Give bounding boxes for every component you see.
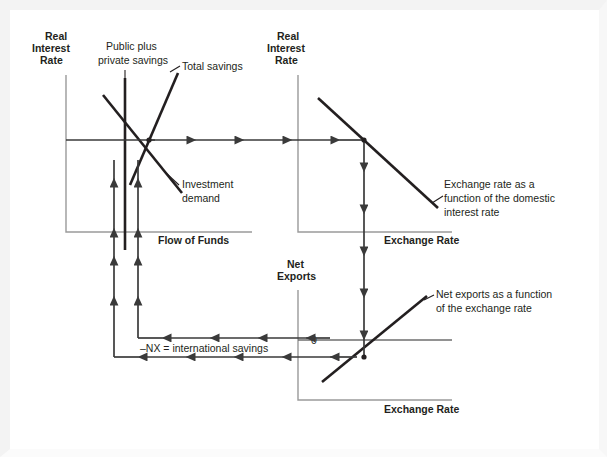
- label-exchange-rate-curve-line2: function of the domestic: [444, 192, 555, 204]
- exchange-rate-ylabel-line1: Real: [277, 30, 299, 42]
- label-international-savings-nx: NX: [146, 342, 161, 354]
- exchange-rate-xlabel: Exchange Rate: [384, 234, 459, 246]
- label-international-savings: –NX = international savings: [140, 342, 268, 354]
- exchange-rate-axes: [298, 75, 452, 232]
- net-exports-ylabel-line2: Exports: [277, 270, 316, 282]
- flow-of-funds-axes: [66, 75, 252, 232]
- label-investment-demand-line2: demand: [182, 192, 220, 204]
- net-exports-axes: [298, 290, 452, 400]
- label-exchange-rate-curve-line1: Exchange rate as a: [444, 178, 535, 190]
- label-public-private-savings-line1: Public plus: [106, 40, 157, 52]
- label-net-exports-curve-line1: Net exports as a function: [436, 288, 552, 300]
- label-public-private-savings-line2: private savings: [98, 54, 168, 66]
- flow-of-funds-xlabel: Flow of Funds: [158, 234, 229, 246]
- exchange-rate-ylabel-line2: Interest: [267, 42, 305, 54]
- panel-exchange-rate-top: Real Interest Rate Exchange rate as a fu…: [267, 30, 555, 246]
- net-exports-xlabel: Exchange Rate: [384, 403, 459, 415]
- label-net-exports-curve-line2: of the exchange rate: [436, 302, 532, 314]
- leader-exchange-rate-curve: [432, 196, 443, 203]
- flow-arrows: [66, 140, 364, 357]
- panel-net-exports: Net Exports 0 Net exports as a function …: [277, 258, 552, 415]
- flow-of-funds-ylabel-line3: Rate: [40, 54, 63, 66]
- equilibrium-dot-exchange-rate: [361, 137, 366, 142]
- economics-flow-diagram: Real Interest Rate Public plus private s…: [0, 0, 607, 457]
- net-exports-ylabel-line1: Net: [287, 258, 304, 270]
- label-exchange-rate-curve-line3: interest rate: [444, 206, 500, 218]
- equilibrium-dot-flow-of-funds: [146, 137, 151, 142]
- exchange-rate-ylabel-line3: Rate: [275, 54, 298, 66]
- curve-net-exports: [322, 296, 427, 382]
- equilibrium-dot-net-exports: [361, 354, 366, 359]
- figure-canvas: Real Interest Rate Public plus private s…: [0, 0, 607, 457]
- flow-of-funds-ylabel-line2: Interest: [32, 42, 70, 54]
- flow-of-funds-ylabel-line1: Real: [45, 30, 67, 42]
- net-exports-zero-label: 0: [311, 334, 317, 346]
- label-investment-demand-line1: Investment: [182, 178, 233, 190]
- curve-exchange-rate: [318, 98, 438, 208]
- label-international-savings-suffix: = international savings: [160, 342, 268, 354]
- label-total-savings: Total savings: [182, 60, 243, 72]
- leader-total-savings: [170, 66, 180, 72]
